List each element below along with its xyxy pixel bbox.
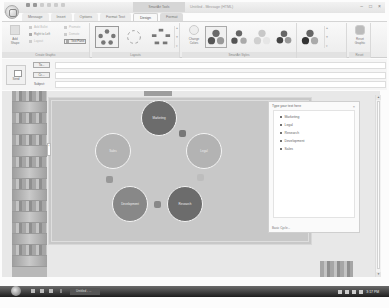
text-pane-item[interactable]: Legal [280, 123, 293, 127]
network-icon[interactable] [352, 290, 356, 294]
text-pane-item[interactable]: Sales [280, 147, 293, 151]
tab-message[interactable]: Message [22, 13, 49, 21]
node-research[interactable]: Research [167, 186, 203, 222]
cycle-arrow-icon [106, 176, 113, 183]
add-shape-button[interactable]: Add Shape [8, 25, 22, 45]
change-colors-button[interactable]: Change Colors [185, 25, 203, 45]
add-bullet-button[interactable]: Add Bullet [29, 25, 48, 30]
text-pane-title: Type your text here [272, 104, 301, 108]
to-button[interactable]: To... [33, 62, 50, 68]
promote-button[interactable]: Promote [64, 25, 80, 30]
tab-options[interactable]: Options [74, 13, 98, 21]
taskbar-button-message[interactable]: Untitled - ... [70, 288, 100, 295]
tray-icon[interactable] [345, 290, 349, 294]
office-button[interactable] [5, 5, 19, 19]
smartart-style-4[interactable] [274, 26, 294, 48]
vertical-scrollbar[interactable]: ▲ ▼ [375, 95, 381, 277]
tray-icon[interactable] [338, 290, 342, 294]
cc-button[interactable]: Cc... [33, 72, 50, 78]
promote-icon [64, 26, 67, 29]
group-reset: Reset Graphic Reset [349, 23, 371, 58]
group-label-reset: Reset [349, 52, 370, 58]
send-button[interactable]: Send [6, 65, 26, 85]
tab-insert[interactable]: Insert [51, 13, 72, 21]
right-to-left-button[interactable]: Right to Left [29, 32, 50, 37]
smartart-style-1[interactable] [205, 26, 227, 48]
node-legal[interactable]: Legal [186, 133, 222, 169]
chevron-icon[interactable] [60, 289, 62, 293]
tab-design[interactable]: Design [133, 13, 158, 21]
node-sales[interactable]: Sales [95, 133, 131, 169]
subject-field[interactable] [55, 81, 386, 88]
cycle-arrow-icon [197, 174, 204, 181]
group-create-graphic: Add Shape Add Bullet Right to Left Layou… [2, 23, 90, 58]
layout-text-cycle[interactable] [122, 26, 146, 48]
undo-icon[interactable] [33, 3, 37, 7]
text-pane-toggle-handle[interactable]: ‹ [47, 143, 51, 156]
background-image-fragment [144, 91, 172, 96]
down-icon[interactable] [54, 3, 58, 7]
redo-icon[interactable] [40, 3, 44, 7]
clock[interactable]: 3:17 PM [366, 290, 379, 294]
node-marketing[interactable]: Marketing [141, 100, 177, 136]
quick-launch-icon[interactable] [40, 289, 44, 293]
text-pane-button[interactable]: Text Pane [64, 39, 86, 44]
smartart-style-2[interactable] [228, 26, 250, 48]
demote-icon [64, 33, 67, 36]
demote-button[interactable]: Demote [64, 32, 80, 37]
close-icon[interactable]: × [353, 104, 355, 109]
cc-field[interactable] [55, 72, 386, 79]
reset-graphic-icon [355, 25, 365, 35]
window-controls: – □ × [360, 3, 381, 9]
text-pane-editor[interactable]: Marketing Legal Research Development Sal… [273, 110, 355, 218]
layout-icon [29, 40, 32, 43]
quick-launch-icon[interactable] [31, 289, 35, 293]
maximize-icon[interactable]: □ [369, 3, 372, 9]
group-smartart-styles-more: ▲▼▾ [297, 23, 347, 58]
quick-access-toolbar [26, 3, 65, 7]
up-icon[interactable] [47, 3, 51, 7]
group-label-smartart-styles: SmartArt Styles [182, 52, 296, 58]
bullet-icon [29, 26, 32, 29]
layout-button[interactable]: Layout [29, 39, 43, 44]
group-label-layouts: Layouts [92, 52, 179, 58]
minimize-icon[interactable]: – [360, 3, 363, 9]
volume-icon[interactable] [359, 290, 363, 294]
taskbar: Untitled - ... 3:17 PM [0, 286, 389, 297]
scroll-down-icon[interactable]: ▼ [376, 272, 381, 277]
arrows-icon [29, 33, 32, 36]
node-development[interactable]: Development [112, 186, 148, 222]
styles-gallery-scroll[interactable]: ▲▼▾ [324, 26, 329, 48]
smartart-text-pane: Type your text here × Marketing Legal Re… [268, 101, 360, 233]
ribbon: Add Shape Add Bullet Right to Left Layou… [2, 21, 387, 58]
to-field[interactable] [55, 62, 386, 69]
scrollbar-thumb[interactable] [377, 101, 380, 269]
layout-basic-cycle[interactable] [95, 26, 119, 48]
group-layouts: ▲▼▾ Layouts [92, 23, 180, 58]
tab-format-text[interactable]: Format Text [100, 13, 131, 21]
smartart-style-3[interactable] [251, 26, 273, 48]
close-icon[interactable]: × [378, 3, 381, 9]
text-pane-item[interactable]: Development [280, 139, 304, 143]
background-image-fragment [320, 261, 353, 277]
reset-graphic-button[interactable]: Reset Graphic [352, 25, 368, 45]
layout-block-cycle[interactable] [149, 26, 173, 48]
text-pane-icon [66, 40, 69, 43]
text-pane-layout-link[interactable]: Basic Cycle... [272, 226, 290, 230]
start-button[interactable] [11, 286, 21, 296]
ribbon-tabs: Message Insert Options Format Text Desig… [22, 13, 183, 21]
scroll-up-icon[interactable]: ▲ [376, 95, 381, 100]
system-tray: 3:17 PM [338, 286, 379, 297]
customize-icon[interactable] [61, 3, 65, 7]
layouts-gallery-scroll[interactable]: ▲▼▾ [174, 26, 179, 48]
tab-format[interactable]: Format [160, 13, 183, 21]
text-pane-item[interactable]: Marketing [280, 115, 299, 119]
quick-launch-icon[interactable] [49, 289, 53, 293]
group-smartart-styles: Change Colors SmartArt Styles [182, 23, 297, 58]
smartart-style-5[interactable] [299, 26, 321, 48]
subject-label: Subject: [34, 81, 45, 87]
text-pane-item[interactable]: Research [280, 131, 299, 135]
message-header: Send To... Cc... Subject: [2, 59, 387, 90]
contextual-tab-group-label: SmartArt Tools [133, 2, 185, 12]
save-icon[interactable] [26, 3, 30, 7]
